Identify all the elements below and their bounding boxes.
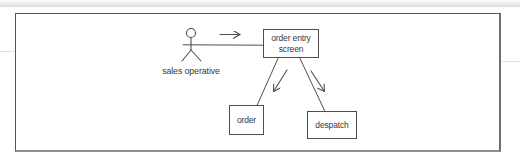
node-order-entry-screen: order entry screen [263,29,319,58]
scan-artifact-line-right [502,61,520,62]
node-order-entry-screen-label: order entry screen [266,33,316,54]
scan-artifact-page-shading [0,0,520,7]
node-order-label: order [237,115,256,126]
node-order: order [229,105,264,135]
actor-label: sales operative [149,66,233,76]
node-despatch: despatch [307,111,357,139]
scanned-figure: order entry screen order despatch sales … [0,0,520,161]
node-despatch-label: despatch [315,120,348,131]
scan-artifact-line-left [0,51,16,52]
